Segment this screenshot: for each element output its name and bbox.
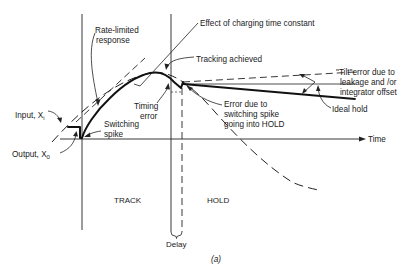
label-tilt-1: "Tilt"error due to [336, 68, 395, 77]
tilt-dashed-line [183, 72, 355, 82]
label-switching-2: spike [104, 130, 124, 139]
label-switching-1: Switching [104, 120, 139, 129]
label-timing-1: Timing [134, 102, 159, 111]
annotation-leaders [48, 23, 331, 153]
label-timing-2: error [140, 112, 158, 121]
sample-hold-timing-diagram: Time [0, 0, 418, 269]
label-spike-error-1: Error due to [224, 100, 268, 109]
label-output: Output, X0 [12, 150, 51, 160]
rate-asymptote-line [76, 58, 145, 122]
label-track-phase: TRACK [114, 196, 142, 205]
delay-brace [171, 232, 182, 239]
label-tilt-3: integrator offset [340, 88, 397, 97]
label-spike-error-2: switching spike [224, 110, 280, 119]
label-delay: Delay [166, 240, 186, 249]
label-rate-limited-2: response [96, 36, 130, 45]
label-spike-error-3: going into HOLD [224, 120, 285, 129]
label-hold-phase: HOLD [207, 196, 229, 205]
label-tilt-2: leakage and /or [340, 78, 397, 87]
held-output-line [183, 84, 355, 99]
label-input: Input, Xi [15, 111, 45, 121]
label-rate-limited-1: Rate-limited [95, 26, 139, 35]
time-axis-label: Time [368, 135, 386, 144]
label-ideal-hold: Ideal hold [332, 105, 368, 114]
label-charging-time-constant: Effect of charging time constant [200, 19, 315, 28]
label-tracking-achieved: Tracking achieved [196, 55, 263, 64]
input-signal-curve [52, 72, 318, 190]
annotation-labels: Rate-limited response Effect of charging… [12, 19, 397, 264]
figure-caption: (a) [211, 255, 221, 264]
arrow-head-icon [359, 137, 366, 142]
